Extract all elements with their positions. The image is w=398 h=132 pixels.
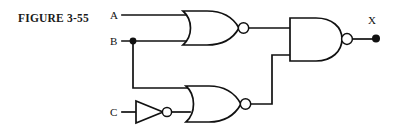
nand-gate-bubble-icon xyxy=(342,34,353,45)
logic-circuit-diagram: FIGURE 3-55 A B C X xyxy=(0,0,398,132)
input-a-label: A xyxy=(110,9,118,21)
nand-gate-body xyxy=(290,18,342,61)
figure-caption: FIGURE 3-55 xyxy=(18,12,89,24)
input-b-label: B xyxy=(110,35,117,47)
junction-b-fanout-dot-icon xyxy=(130,38,137,45)
output-x-terminal-dot-icon xyxy=(372,35,380,43)
output-x-label: X xyxy=(368,14,376,26)
nor-gate-bottom-bubble-icon xyxy=(240,99,250,109)
input-c-label: C xyxy=(110,106,117,118)
not-gate-c-bubble-icon xyxy=(162,107,171,116)
nor-gate-top-bubble-icon xyxy=(238,23,248,33)
